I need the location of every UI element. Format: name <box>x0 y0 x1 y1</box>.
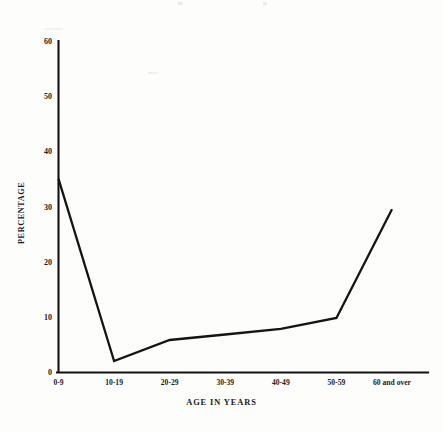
y-tick-label: 50 <box>28 92 52 101</box>
x-tick-label: 10-19 <box>105 378 123 387</box>
y-tick-label: 0 <box>28 368 52 377</box>
y-tick-label: 60 <box>28 37 52 46</box>
chart-figure: PERCENTAGE AGE IN YEARS 0102030405060 0-… <box>0 0 443 432</box>
x-tick-label: 50-59 <box>328 378 346 387</box>
data-series-line <box>59 179 393 361</box>
y-tick-label: 10 <box>28 312 52 321</box>
y-tick-label: 20 <box>28 257 52 266</box>
plot-area <box>0 0 443 432</box>
x-tick-label: 0-9 <box>53 378 63 387</box>
x-tick-label: 20-29 <box>161 378 179 387</box>
y-tick-label: 40 <box>28 147 52 156</box>
x-tick-label: 30-39 <box>216 378 234 387</box>
x-tick-label: 40-49 <box>272 378 290 387</box>
x-tick-label: 60 and over <box>373 378 411 387</box>
y-tick-label: 30 <box>28 202 52 211</box>
